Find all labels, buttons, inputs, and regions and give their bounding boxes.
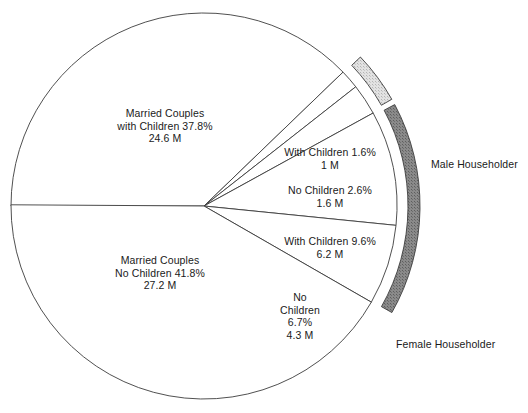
slice-label-married-no-children: Married Couples No Children 41.8% 27.2 M: [70, 254, 250, 292]
legend-label-male-householder: Male Householder: [431, 158, 518, 171]
pie-chart-figure: Married Couples with Children 37.8% 24.6…: [0, 0, 528, 413]
slice-label-female-with-children: With Children 9.6% 6.2 M: [240, 235, 420, 260]
slice-label-male-with-children: With Children 1.6% 1 M: [240, 146, 420, 171]
legend-label-female-householder: Female Householder: [396, 338, 495, 351]
slice-label-male-no-children: No Children 2.6% 1.6 M: [240, 184, 420, 209]
slice-label-married-with-children: Married Couples with Children 37.8% 24.6…: [75, 107, 255, 145]
slice-label-female-no-children: No Children 6.7% 4.3 M: [210, 291, 390, 341]
